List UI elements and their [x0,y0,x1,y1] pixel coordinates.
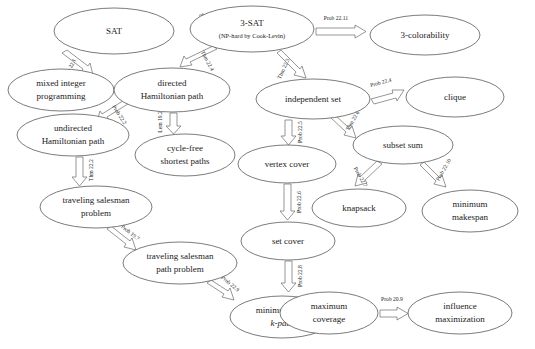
edge-vc-setcover: Prob 22.6 [280,184,302,220]
edge-label-3sat-is: Thm 22.3 [276,57,291,79]
edge-label-dhp-cfsp: Lem 19.2 [157,111,163,133]
node-traveling-salesman-path-problem-ellipse[interactable] [123,242,237,284]
node-3colorability-label: 3-colorability [401,30,450,40]
node-traveling-salesman-problem-sublabel: problem [81,208,111,218]
node-traveling-salesman-path-problem[interactable]: traveling salesman path problem [123,242,237,284]
edge-uhp-tsp: Thm 22.2 [72,157,94,186]
node-sat-label: SAT [106,26,123,36]
node-traveling-salesman-problem-label: traveling salesman [62,195,130,205]
node-3colorability[interactable]: 3-colorability [370,15,480,55]
reduction-graph-svg: obvious Prob 22.11 Thm 22.4 Thm 22.3 Pro… [0,0,535,349]
edge-arrow-is-vc [281,120,296,145]
edge-arrow-setcover-maxcov [281,261,296,292]
node-directed-hamiltonian-path-sublabel: Hamiltonian path [141,91,204,101]
node-vertex-cover[interactable]: vertex cover [238,145,336,183]
node-clique-label: clique [444,92,466,102]
node-independent-set[interactable]: independent set [256,79,370,119]
node-influence-maximization-sublabel: maximization [435,314,485,324]
node-undirected-hamiltonian-path[interactable]: undirected Hamiltonian path [17,114,129,156]
node-maximum-coverage-sublabel: coverage [313,314,345,324]
node-3sat[interactable]: 3-SAT (NP-hard by Cook-Levin) [190,6,314,52]
node-undirected-hamiltonian-path-ellipse[interactable] [17,114,129,156]
edge-label-is-vc: Prob 22.5 [297,121,303,143]
node-traveling-salesman-path-problem-label: traveling salesman [146,251,214,261]
edge-ss-knap: Prob 22.7 [353,161,382,188]
node-influence-maximization-label: influence [443,301,476,311]
edge-label-is-clique: Prob 22.4 [370,77,393,88]
node-cycle-free-shortest-paths-label: cycle-free [167,143,203,153]
node-cycle-free-shortest-paths[interactable]: cycle-free shortest paths [135,134,235,176]
node-knapsack-label: knapsack [342,203,376,213]
node-minimum-makespan-ellipse[interactable] [422,190,518,232]
node-subset-sum[interactable]: subset sum [353,126,453,164]
node-directed-hamiltonian-path-label: directed [158,78,187,88]
node-directed-hamiltonian-path[interactable]: directed Hamiltonian path [114,68,230,112]
node-independent-set-label: independent set [285,94,342,104]
edge-label-maxcov-infmax: Prob 20.9 [381,296,403,302]
edge-setcover-maxcov: Prob 22.8 [281,261,303,292]
edge-label-uhp-tsp: Thm 22.2 [88,159,94,181]
edge-is-clique: Prob 22.4 [370,77,404,104]
node-clique[interactable]: clique [406,77,504,117]
node-minimum-makespan[interactable]: minimum makespan [422,190,518,232]
node-set-cover[interactable]: set cover [241,222,335,260]
edge-is-vc: Prob 22.5 [281,120,303,145]
edge-arrow-3sat-3col [316,25,366,38]
node-3sat-ellipse[interactable] [190,6,314,52]
edge-arrow-dhp-cfsp [166,113,181,134]
node-3sat-label: 3-SAT [240,18,264,28]
node-maximum-coverage[interactable]: maximum coverage [280,292,378,334]
node-3sat-sublabel: (NP-hard by Cook-Levin) [219,32,285,40]
edge-arrow-vc-setcover [280,184,295,220]
edge-label-3sat-3col: Prob 22.11 [324,15,349,21]
edge-arrow-maxcov-infmax [380,307,408,320]
node-mixed-integer-programming[interactable]: mixed integer programming [8,69,114,111]
edge-label-vc-setcover: Prob 22.6 [296,191,302,213]
node-traveling-salesman-problem[interactable]: traveling salesman problem [40,186,152,228]
node-maximum-coverage-ellipse[interactable] [280,292,378,334]
node-vertex-cover-label: vertex cover [265,159,310,169]
node-sat[interactable]: SAT [54,8,174,54]
node-mixed-integer-programming-label: mixed integer [36,78,86,88]
node-mixed-integer-programming-sublabel: programming [37,91,86,101]
node-cycle-free-shortest-paths-ellipse[interactable] [135,134,235,176]
edge-maxcov-infmax: Prob 20.9 [380,296,408,320]
node-minimum-makespan-sublabel: makespan [452,212,488,222]
node-minimum-makespan-label: minimum [452,199,487,209]
node-knapsack[interactable]: knapsack [312,189,406,227]
node-traveling-salesman-path-problem-sublabel: path problem [156,264,204,274]
edge-3sat-3col: Prob 22.11 [316,15,366,38]
edge-arrow-is-clique [371,90,404,104]
node-maximum-coverage-label: maximum [311,301,348,311]
node-subset-sum-label: subset sum [383,140,423,150]
node-mixed-integer-programming-ellipse[interactable] [8,69,114,111]
edge-3sat-is: Thm 22.3 [276,50,306,80]
node-influence-maximization-ellipse[interactable] [408,292,512,334]
reduction-diagram: obvious Prob 22.11 Thm 22.4 Thm 22.3 Pro… [0,0,535,349]
node-set-cover-label: set cover [272,236,304,246]
edge-dhp-cfsp: Lem 19.2 [157,111,181,134]
edge-label-ss-makespan: Prob 22.10 [435,157,453,181]
node-cycle-free-shortest-paths-sublabel: shortest paths [160,156,210,166]
edge-label-setcover-maxcov: Prob 22.8 [297,265,303,287]
node-traveling-salesman-problem-ellipse[interactable] [40,186,152,228]
node-influence-maximization[interactable]: influence maximization [408,292,512,334]
edge-3sat-dhp: Thm 22.4 [180,46,217,72]
node-undirected-hamiltonian-path-label: undirected [54,123,92,133]
edge-arrow-uhp-tsp [72,157,87,186]
node-directed-hamiltonian-path-ellipse[interactable] [114,68,230,112]
edge-label-3sat-dhp: Thm 22.4 [200,50,216,72]
node-undirected-hamiltonian-path-sublabel: Hamiltonian path [42,136,105,146]
